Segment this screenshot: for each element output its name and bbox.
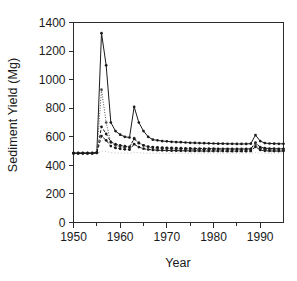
data-point	[109, 140, 112, 143]
series-paths	[74, 33, 284, 153]
y-tick-label: 800	[45, 101, 65, 115]
data-point	[277, 150, 280, 153]
data-point	[221, 150, 224, 153]
data-point	[170, 147, 173, 150]
data-point	[249, 142, 252, 145]
data-point	[147, 145, 150, 148]
y-tick-label: 200	[45, 187, 65, 201]
data-point	[273, 147, 276, 150]
data-point	[212, 147, 215, 150]
data-point	[128, 148, 131, 151]
data-point	[231, 142, 234, 145]
data-point	[133, 105, 136, 108]
x-tick-label: 1990	[247, 230, 274, 244]
data-point	[217, 142, 220, 145]
data-point	[273, 142, 276, 145]
data-point	[277, 142, 280, 145]
data-point	[114, 147, 117, 150]
data-point	[114, 130, 117, 133]
data-point	[240, 150, 243, 153]
data-point	[189, 150, 192, 153]
data-point	[282, 150, 285, 153]
y-tick-label: 1000	[39, 73, 66, 87]
data-point	[193, 150, 196, 153]
data-point	[179, 149, 182, 152]
data-point	[207, 150, 210, 153]
chart-figure: Sediment Yield (Mg) 02004006008001000120…	[0, 0, 297, 281]
data-point	[268, 150, 271, 153]
data-point	[249, 150, 252, 153]
data-point	[128, 145, 131, 148]
data-point	[137, 121, 140, 124]
data-point	[137, 146, 140, 149]
data-point	[189, 147, 192, 150]
data-point	[133, 143, 136, 146]
data-point	[123, 145, 126, 148]
data-point	[119, 133, 122, 136]
y-tick-label: 1400	[39, 16, 66, 30]
x-tick-label: 1950	[60, 230, 87, 244]
data-point	[100, 135, 103, 138]
data-point	[203, 147, 206, 150]
data-point	[119, 147, 122, 150]
data-point	[100, 125, 103, 128]
data-point	[179, 141, 182, 144]
data-point	[156, 146, 159, 149]
x-tick-label: 1980	[200, 230, 227, 244]
data-point	[231, 150, 234, 153]
data-point	[263, 147, 266, 150]
data-point	[114, 143, 117, 146]
data-point	[259, 140, 262, 143]
data-point	[151, 149, 154, 152]
data-point	[268, 147, 271, 150]
data-point	[77, 152, 80, 155]
data-point	[245, 143, 248, 146]
data-point	[72, 152, 75, 155]
data-point	[240, 143, 243, 146]
data-point	[198, 147, 201, 150]
data-point	[175, 141, 178, 144]
tick-marks	[69, 23, 261, 228]
data-point	[207, 147, 210, 150]
data-point	[128, 136, 131, 139]
data-point	[263, 142, 266, 145]
data-point	[109, 121, 112, 124]
data-point	[81, 152, 84, 155]
data-point	[165, 140, 168, 143]
data-point	[254, 145, 257, 148]
x-tick-label-group: 19501960197019801990	[60, 230, 274, 244]
data-point	[198, 142, 201, 145]
data-point	[142, 130, 145, 133]
data-point	[273, 150, 276, 153]
data-point	[105, 133, 108, 136]
data-point	[91, 152, 94, 155]
data-point	[179, 147, 182, 150]
data-point	[147, 148, 150, 151]
data-point	[268, 142, 271, 145]
data-point	[123, 135, 126, 138]
y-tick-label: 1200	[39, 44, 66, 58]
data-point	[100, 32, 103, 35]
data-point	[151, 146, 154, 149]
data-point	[212, 150, 215, 153]
data-point	[235, 150, 238, 153]
data-point	[207, 142, 210, 145]
data-point	[161, 146, 164, 149]
data-point	[95, 152, 98, 155]
data-point	[184, 149, 187, 152]
data-point	[254, 141, 257, 144]
data-point	[226, 142, 229, 145]
data-point	[245, 150, 248, 153]
data-point	[282, 142, 285, 145]
data-point	[184, 141, 187, 144]
data-point	[221, 142, 224, 145]
data-point	[189, 141, 192, 144]
data-point	[226, 147, 229, 150]
data-point	[175, 147, 178, 150]
data-point	[193, 147, 196, 150]
data-point	[151, 138, 154, 141]
data-point	[165, 149, 168, 152]
x-tick-label: 1960	[107, 230, 134, 244]
data-point	[198, 150, 201, 153]
data-point	[165, 146, 168, 149]
